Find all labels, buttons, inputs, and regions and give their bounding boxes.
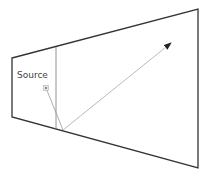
reflection-diagram	[0, 0, 207, 176]
incident-ray	[46, 88, 63, 130]
source-label: Source	[17, 71, 48, 80]
room-outline	[12, 9, 198, 168]
reflected-ray	[63, 43, 171, 130]
source-marker	[44, 86, 49, 91]
